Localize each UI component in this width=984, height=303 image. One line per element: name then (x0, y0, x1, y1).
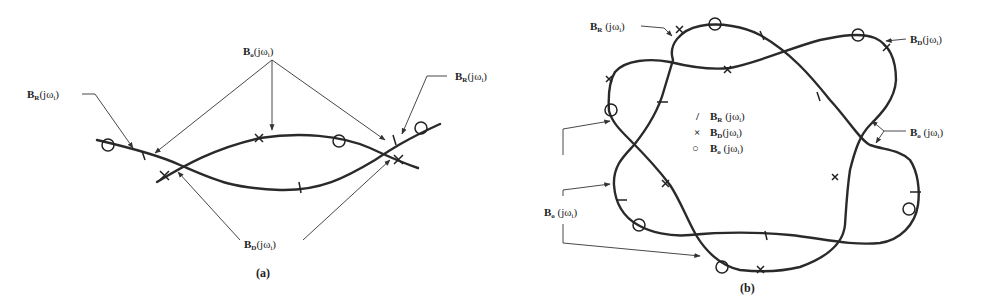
leader-bo-left-1 (563, 121, 610, 155)
leader-bd-2 (303, 160, 390, 240)
leader-bd-1 (178, 172, 240, 240)
legend-item-bd: BD(jωi) (710, 126, 742, 140)
leader-bo-left-2 (563, 184, 610, 196)
label-bo-left: Bo (jωi) (544, 206, 578, 220)
legend: / BR (jωi) × BD(jωi) ○ Bo (jωi) (692, 110, 745, 156)
legend-symbol-x-icon: × (694, 126, 700, 138)
marker-o-icon (102, 139, 114, 151)
leader-bo-3 (272, 60, 385, 140)
caption-b: (b) (740, 281, 755, 295)
leader-bd-top-right (886, 39, 906, 41)
label-bd-top-right: BD(jωi) (910, 33, 942, 47)
marker-x-icon (832, 174, 838, 180)
label-br-right: BR(jωi) (455, 70, 487, 84)
marker-o-icon (333, 135, 345, 147)
leader-br-top-h (641, 26, 664, 28)
leader-br-right (402, 76, 447, 134)
label-br-left: BR(jωi) (27, 88, 59, 102)
leader-bo-right-1 (872, 121, 884, 131)
caption-a: (a) (256, 266, 270, 280)
figure-canvas: Bo(jωi) BR(jωi) BR(jωi) BD(jωi) (a) (0, 0, 984, 303)
leader-bo-left-3 (563, 224, 700, 256)
marker-r-icon (299, 182, 301, 193)
leader-br-left (82, 94, 133, 148)
legend-item-br: BR (jωi) (710, 110, 745, 124)
legend-symbol-r-icon: / (695, 110, 700, 122)
label-bo-top: Bo(jωi) (243, 45, 274, 59)
marker-o-icon (903, 203, 915, 215)
leader-br-top (664, 28, 672, 36)
marker-r-icon (393, 135, 396, 145)
leader-bo-right-2 (876, 131, 884, 143)
label-bo-right: Bo (jωi) (910, 126, 944, 140)
curve-b-2 (609, 35, 896, 271)
label-br-top: BR (jωi) (590, 20, 625, 34)
marker-r-icon (817, 92, 820, 101)
panel-a: Bo(jωi) BR(jωi) BR(jωi) BD(jωi) (a) (27, 45, 487, 280)
panel-b: BR (jωi) BD(jωi) Bo (jωi) Bo (jωi) / BR … (544, 18, 944, 295)
label-bd-bottom: BD(jωi) (244, 238, 276, 252)
marker-x-icon (676, 26, 683, 33)
legend-symbol-o-icon: ○ (692, 142, 699, 154)
legend-item-bo: Bo (jωi) (710, 142, 744, 156)
